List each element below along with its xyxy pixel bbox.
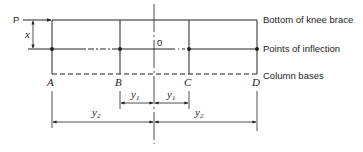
column-label-a: A [46,76,54,88]
inflection-point-a [50,47,54,51]
label-knee-brace: Bottom of knee brace [263,14,353,25]
inflection-point-b [118,47,122,51]
inflection-point-c [187,47,191,51]
y2-right-label: y2 [194,106,204,120]
label-column-bases: Column bases [263,70,324,81]
label-inflection: Points of inflection [263,43,340,54]
frame-diagram: P x 0 A B C D y1 y1 y2 y2 Bottom of knee… [0,0,363,152]
inflection-point-d [255,47,259,51]
y1-left-label: y1 [130,88,139,102]
load-label: P [13,14,19,25]
x-label: x [24,28,30,40]
origin-label: 0 [157,37,162,48]
y2-left-label: y2 [91,106,101,120]
column-label-b: B [115,76,122,88]
y1-right-label: y1 [166,88,175,102]
column-label-c: C [184,76,192,88]
column-label-d: D [251,76,260,88]
